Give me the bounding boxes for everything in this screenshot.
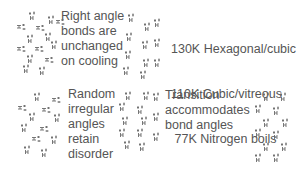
water-molecule-icon bbox=[123, 140, 132, 151]
water-molecule-icon bbox=[28, 11, 37, 22]
caption-line: bond angles bbox=[165, 118, 250, 133]
bottom-right-caption: Transition accommodates bond angles bbox=[165, 88, 250, 133]
water-molecule-icon bbox=[280, 142, 289, 153]
water-molecule-icon bbox=[272, 106, 281, 117]
water-molecule-icon bbox=[152, 92, 161, 103]
water-molecule-icon bbox=[30, 135, 41, 144]
water-molecule-icon bbox=[38, 125, 49, 134]
water-molecule-icon bbox=[262, 92, 271, 103]
water-molecule-icon bbox=[50, 96, 61, 105]
water-molecule-icon bbox=[279, 92, 288, 103]
water-molecule-icon bbox=[125, 32, 134, 43]
temperature-line: 130K Hexagonal/cubic bbox=[171, 42, 296, 57]
water-molecule-icon bbox=[40, 148, 49, 159]
water-molecule-icon bbox=[23, 145, 32, 156]
water-molecule-icon bbox=[136, 128, 145, 139]
caption-line: bonds are bbox=[61, 24, 124, 39]
water-molecule-icon bbox=[254, 128, 263, 139]
water-molecule-icon bbox=[15, 45, 26, 54]
water-molecule-icon bbox=[142, 91, 151, 102]
water-molecule-icon bbox=[152, 132, 161, 143]
water-molecule-icon bbox=[121, 116, 130, 127]
water-molecule-icon bbox=[53, 113, 62, 124]
water-molecule-icon bbox=[50, 135, 59, 146]
water-molecule-icon bbox=[262, 118, 271, 129]
water-molecule-icon bbox=[33, 92, 42, 103]
water-molecule-icon bbox=[28, 112, 37, 123]
water-molecule-icon bbox=[40, 106, 51, 115]
water-molecule-icon bbox=[136, 105, 145, 116]
water-molecule-icon bbox=[22, 64, 31, 75]
caption-line: irregular bbox=[68, 102, 115, 117]
water-molecule-icon bbox=[20, 123, 29, 134]
water-molecule-icon bbox=[127, 13, 136, 24]
water-molecule-icon bbox=[153, 58, 162, 69]
water-molecule-icon bbox=[254, 153, 263, 164]
bottom-left-caption: Random irregular angles retain disorder bbox=[68, 87, 115, 162]
water-molecule-icon bbox=[139, 70, 148, 81]
caption-line: angles bbox=[68, 117, 115, 132]
caption-line: retain bbox=[68, 132, 115, 147]
water-molecule-icon bbox=[38, 66, 47, 77]
water-molecule-icon bbox=[272, 153, 281, 164]
water-molecule-icon bbox=[143, 22, 152, 33]
caption-line: on cooling bbox=[61, 54, 124, 69]
water-molecule-icon bbox=[124, 91, 133, 102]
water-molecule-icon bbox=[124, 50, 133, 61]
caption-line: Transition bbox=[165, 88, 250, 103]
water-molecule-icon bbox=[16, 104, 27, 113]
caption-line: accommodates bbox=[165, 103, 250, 118]
water-molecule-icon bbox=[153, 38, 162, 49]
water-molecule-icon bbox=[33, 45, 44, 54]
top-left-caption: Right angle bonds are unchanged on cooli… bbox=[61, 9, 124, 69]
water-molecule-icon bbox=[141, 40, 150, 51]
water-molecule-icon bbox=[152, 112, 161, 123]
water-molecule-icon bbox=[142, 58, 151, 69]
water-molecule-icon bbox=[140, 116, 149, 127]
water-molecule-icon bbox=[153, 18, 162, 29]
water-molecule-icon bbox=[272, 130, 281, 141]
water-molecule-icon bbox=[15, 23, 26, 32]
water-molecule-icon bbox=[254, 104, 263, 115]
caption-line: Right angle bbox=[61, 9, 124, 24]
water-molecule-icon bbox=[122, 66, 131, 77]
water-molecule-icon bbox=[138, 142, 147, 153]
water-molecule-icon bbox=[118, 102, 127, 113]
water-molecule-icon bbox=[262, 142, 271, 153]
water-molecule-icon bbox=[281, 118, 290, 129]
water-molecule-icon bbox=[43, 56, 54, 65]
water-molecule-icon bbox=[26, 34, 35, 45]
water-molecule-icon bbox=[54, 18, 65, 27]
caption-line: Random bbox=[68, 87, 115, 102]
water-molecule-icon bbox=[118, 128, 127, 139]
caption-line: unchanged bbox=[61, 39, 124, 54]
caption-line: disorder bbox=[68, 147, 115, 162]
water-molecule-icon bbox=[50, 40, 59, 51]
